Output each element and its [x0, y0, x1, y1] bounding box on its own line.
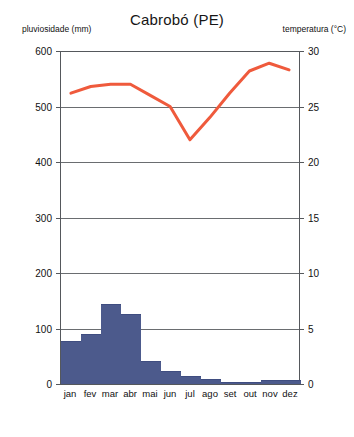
right-tick-5 [299, 329, 304, 330]
right-tick-label-15: 15 [308, 212, 319, 223]
month-label-out: out [240, 388, 260, 404]
month-label-fev: fev [80, 388, 100, 404]
month-label-jan: jan [60, 388, 80, 404]
right-tick-label-0: 0 [308, 379, 314, 390]
left-tick-label-200: 200 [35, 268, 52, 279]
right-tick-15 [299, 218, 304, 219]
left-tick-label-400: 400 [35, 157, 52, 168]
right-tick-20 [299, 162, 304, 163]
right-tick-10 [299, 273, 304, 274]
right-tick-25 [299, 107, 304, 108]
right-tick-30 [299, 51, 304, 52]
month-label-set: set [220, 388, 240, 404]
month-label-jul: jul [180, 388, 200, 404]
right-tick-label-20: 20 [308, 157, 319, 168]
left-tick-label-500: 500 [35, 101, 52, 112]
left-tick-label-0: 0 [46, 379, 52, 390]
month-label-ago: ago [200, 388, 220, 404]
month-label-nov: nov [260, 388, 280, 404]
month-label-mar: mar [100, 388, 120, 404]
right-axis-title: temperatura (°C) [283, 24, 346, 34]
month-label-dez: dez [280, 388, 300, 404]
month-label-abr: abr [120, 388, 140, 404]
left-tick-0 [56, 384, 61, 385]
gridline-0 [61, 384, 299, 385]
month-label-jun: jun [160, 388, 180, 404]
plot-area: 0100200300400500600 051015202530 [60, 51, 300, 384]
right-tick-label-25: 25 [308, 101, 319, 112]
left-tick-label-100: 100 [35, 323, 52, 334]
climograph-figure: pluviosidade (mm) Cabrobó (PE) temperatu… [0, 0, 354, 437]
month-label-mai: mai [140, 388, 160, 404]
left-tick-label-300: 300 [35, 212, 52, 223]
right-tick-label-5: 5 [308, 323, 314, 334]
right-tick-0 [299, 384, 304, 385]
month-axis-labels: janfevmarabrmaijunjulagosetoutnovdez [60, 388, 300, 404]
right-tick-label-30: 30 [308, 46, 319, 57]
right-tick-label-10: 10 [308, 268, 319, 279]
temperature-line [61, 51, 299, 384]
left-tick-label-600: 600 [35, 46, 52, 57]
